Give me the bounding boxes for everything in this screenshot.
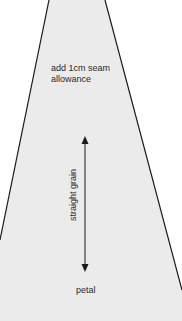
seam-note-line-2: allowance <box>51 74 110 85</box>
grain-label: straight grain <box>68 169 79 221</box>
seam-note-line-1: add 1cm seam <box>51 63 110 74</box>
piece-label: petal <box>76 285 96 296</box>
seam-allowance-note: add 1cm seam allowance <box>51 63 110 85</box>
pattern-piece-fill <box>0 0 182 321</box>
petal-pattern-piece <box>0 0 182 321</box>
